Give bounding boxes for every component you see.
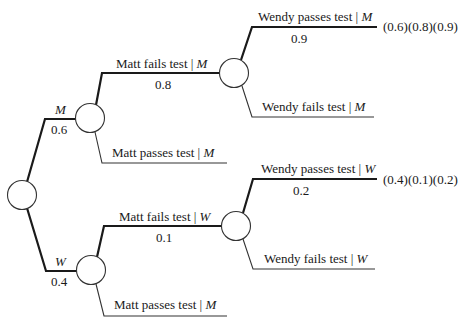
- probability-tree-diagram: M 0.6 W 0.4 Matt fails test | M 0.8 Matt…: [0, 0, 462, 322]
- prob-M: 0.6: [51, 122, 68, 137]
- node-W-fail: [222, 212, 251, 241]
- product-W-path: (0.4)(0.1)(0.2): [383, 172, 458, 187]
- prob-W-fail: 0.1: [156, 230, 172, 245]
- label-M-fail-wfail: Wendy fails test | M: [262, 99, 367, 114]
- edge-root-to-W: [27, 208, 77, 271]
- label-W-fail-wpass: Wendy passes test | W: [261, 161, 376, 176]
- label-W-fail-wfail: Wendy fails test | W: [264, 251, 369, 266]
- label-W: W: [55, 254, 67, 269]
- prob-M-fail: 0.8: [155, 77, 171, 92]
- node-W: [77, 256, 106, 285]
- root-node: [8, 181, 37, 210]
- prob-W: 0.4: [51, 274, 68, 289]
- label-W-pass: Matt passes test | M: [114, 297, 217, 312]
- label-W-fail: Matt fails test | W: [119, 209, 212, 224]
- node-M-fail: [220, 59, 249, 88]
- label-M-fail: Matt fails test | M: [116, 56, 209, 71]
- prob-M-fail-wpass: 0.9: [291, 31, 307, 46]
- node-M: [76, 104, 105, 133]
- tree-canvas: M 0.6 W 0.4 Matt fails test | M 0.8 Matt…: [0, 0, 462, 322]
- label-M: M: [54, 102, 67, 117]
- label-M-fail-wpass: Wendy passes test | M: [258, 9, 373, 24]
- edge-W-fail-to-wpass: [243, 179, 377, 213]
- label-M-pass: Matt passes test | M: [112, 145, 215, 160]
- edge-M-fail-to-wpass: [241, 27, 377, 60]
- prob-W-fail-wpass: 0.2: [293, 183, 309, 198]
- product-M-path: (0.6)(0.8)(0.9): [383, 19, 458, 34]
